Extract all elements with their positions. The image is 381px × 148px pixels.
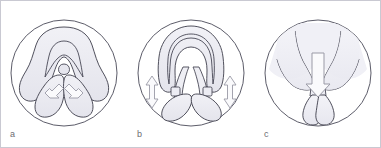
tissue-lobe-left (162, 94, 192, 121)
figure-frame: a (0, 0, 381, 148)
tissue-lobe-right (191, 94, 221, 121)
panel-c: c (255, 1, 381, 148)
tissue-lobe-right (316, 95, 334, 125)
tissue-central-nodule (59, 64, 70, 75)
panel-c-label: c (264, 130, 269, 139)
panel-b: b (128, 1, 255, 148)
tissue-connector-left (171, 87, 180, 96)
panel-a: a (1, 1, 128, 148)
panel-b-label: b (137, 130, 142, 139)
panel-a-label: a (10, 130, 15, 139)
panel-row: a (1, 1, 381, 148)
tissue-connector-right (203, 87, 212, 96)
